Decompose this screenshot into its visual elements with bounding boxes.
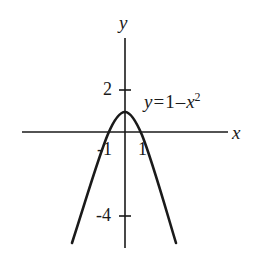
equation-exponent: 2 bbox=[195, 90, 201, 104]
x-tick-label-1: 1 bbox=[138, 140, 147, 158]
equation-constant: 1 bbox=[165, 91, 175, 112]
equation-variable: x bbox=[186, 91, 194, 112]
parabola-figure: y x 2 -4 -1 1 y=1–x2 bbox=[0, 0, 253, 267]
equation-equals: = bbox=[152, 91, 165, 112]
equation-annotation: y=1–x2 bbox=[144, 92, 201, 111]
y-axis-label: y bbox=[119, 13, 127, 32]
y-tick-label-neg4: -4 bbox=[96, 206, 111, 224]
y-tick-label-2: 2 bbox=[103, 80, 112, 98]
plot-canvas bbox=[0, 0, 253, 267]
equation-minus: – bbox=[175, 91, 187, 112]
x-tick-label-neg1: -1 bbox=[97, 140, 112, 158]
x-axis-label: x bbox=[232, 123, 240, 142]
